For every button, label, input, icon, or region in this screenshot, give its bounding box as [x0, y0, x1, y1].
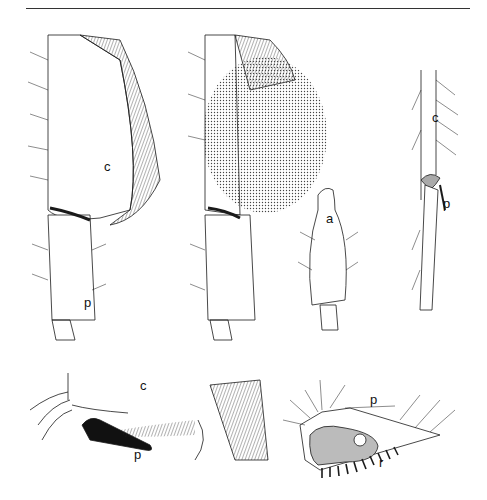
panel-f-basitarsus — [283, 380, 455, 478]
label-a-corbicula-c: c — [104, 160, 111, 173]
panel-c-basitarsus — [298, 188, 358, 330]
panel-a-leg — [28, 35, 160, 340]
label-e-pollen-press-p: p — [134, 448, 141, 461]
label-e-corbicula-c: c — [140, 379, 147, 392]
label-c-auricle-a: a — [326, 212, 333, 225]
label-d-corbicula-c: c — [432, 111, 439, 124]
label-a-pollen-press-p: p — [84, 296, 91, 309]
panel-e-pollen-press — [30, 373, 268, 460]
label-d-pollen-press-p: p — [443, 197, 450, 210]
label-f-rastellum-r: r — [379, 456, 383, 469]
label-f-pollen-press-p: p — [370, 393, 377, 406]
figure-illustration — [0, 0, 487, 500]
panel-d-leg — [412, 70, 458, 310]
panel-b-leg — [188, 35, 327, 340]
